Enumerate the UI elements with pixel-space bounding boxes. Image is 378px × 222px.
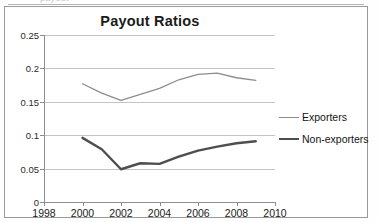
chart-screenshot: payout Payout Ratios 00.050.10.150.20.25…: [0, 0, 378, 222]
x-axis-tick-label: 1998: [24, 207, 64, 219]
legend-item-exporters: Exporters: [279, 106, 371, 128]
series-line-non-exporters: [83, 138, 256, 169]
x-axis-tick-label: 2008: [217, 207, 257, 219]
y-axis-tick-label: 0: [5, 197, 39, 208]
x-tick: [275, 202, 276, 206]
chart-container: Payout Ratios 00.050.10.150.20.25 199820…: [4, 6, 368, 218]
x-axis-line: [44, 202, 275, 203]
series-line-exporters: [83, 73, 256, 100]
x-axis-tick-label: 2004: [140, 207, 180, 219]
chart-legend: Exporters Non-exporters: [279, 106, 371, 150]
x-axis-tick-label: 2006: [178, 207, 218, 219]
cut-off-text-fragment: payout: [40, 0, 69, 3]
y-axis-tick-label: 0.15: [5, 96, 39, 107]
legend-label-non-exporters: Non-exporters: [302, 133, 369, 145]
legend-item-non-exporters: Non-exporters: [279, 128, 371, 150]
x-axis-tick-label: 2010: [255, 207, 295, 219]
legend-line-icon-non-exporters: [279, 138, 299, 140]
plot-area: [44, 35, 275, 202]
legend-line-icon-exporters: [279, 117, 299, 118]
series-lines: [44, 35, 275, 202]
chart-title: Payout Ratios: [5, 13, 295, 29]
x-axis-tick-label: 2000: [63, 207, 103, 219]
y-axis-tick-label: 0.1: [5, 130, 39, 141]
y-axis-tick-label: 0.2: [5, 63, 39, 74]
horizontal-rule: [8, 4, 364, 5]
y-axis-tick-label: 0.05: [5, 163, 39, 174]
y-axis-tick-label: 0.25: [5, 30, 39, 41]
x-axis-tick-label: 2002: [101, 207, 141, 219]
legend-label-exporters: Exporters: [302, 111, 347, 123]
